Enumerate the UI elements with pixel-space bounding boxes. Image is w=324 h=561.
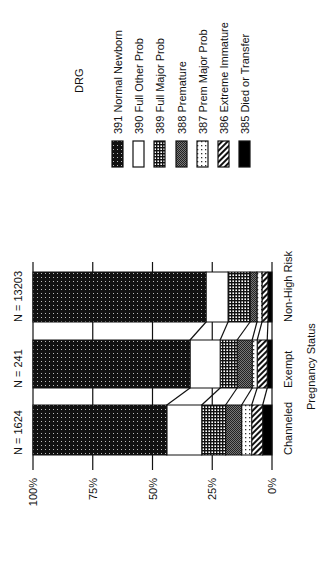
bar-channeled <box>33 405 272 455</box>
bar-segment <box>257 272 262 322</box>
category-label: Non-High Risk <box>282 251 294 322</box>
legend-swatch <box>218 141 229 167</box>
bar-segment <box>33 405 167 455</box>
bar-segment <box>250 272 257 322</box>
bar-segment <box>262 272 268 322</box>
legend-item: 388 Premature <box>176 61 188 167</box>
x-axis-label: Pregnancy Status <box>305 323 317 410</box>
connector-line <box>167 388 190 405</box>
legend-item: 387 Prem Major Prob <box>197 29 209 167</box>
bar-segment <box>220 340 237 388</box>
n-label: N = 13203 <box>12 271 24 322</box>
bar-segment <box>33 272 206 322</box>
connector-line <box>267 322 268 340</box>
connector-line <box>226 388 237 405</box>
stacked-bar-chart: 0%25%50%75%100%N = 1624ChanneledN = 241E… <box>0 0 324 561</box>
connector-line <box>263 388 268 405</box>
connector-line <box>220 322 228 340</box>
bar-segment <box>33 340 190 388</box>
y-tick-label: 75% <box>87 478 99 500</box>
connector-line <box>252 322 257 340</box>
legend-item: 390 Full Other Prob <box>133 38 145 167</box>
bar-segment <box>257 340 267 388</box>
legend-swatch <box>154 141 165 167</box>
bar-exempt <box>33 340 272 388</box>
bar-segment <box>202 405 226 455</box>
y-tick-label: 0% <box>266 478 278 494</box>
category-label: Channeled <box>282 402 294 455</box>
category-label: Exempt <box>282 351 294 388</box>
legend-swatch <box>176 141 187 167</box>
bar-segment <box>242 405 252 455</box>
legend-item: 385 Died or Transfer <box>239 33 251 167</box>
connector-line <box>237 322 250 340</box>
n-label: N = 241 <box>12 349 24 388</box>
y-tick-label: 50% <box>147 478 159 500</box>
legend-label: 387 Prem Major Prob <box>197 29 209 134</box>
legend-label: 385 Died or Transfer <box>239 33 251 134</box>
bar-segment <box>190 340 220 388</box>
legend-label: 390 Full Other Prob <box>133 38 145 134</box>
legend-item: 391 Normal Newborn <box>112 30 124 167</box>
legend-swatch <box>112 141 123 167</box>
legend-swatch <box>239 141 250 167</box>
bar-segment <box>228 272 250 322</box>
y-tick-label: 25% <box>206 478 218 500</box>
bar-non-high-risk <box>33 272 272 322</box>
legend-item: 386 Extreme Immature <box>218 22 230 167</box>
connector-line <box>190 322 206 340</box>
bar-segment <box>267 340 272 388</box>
bar-segment <box>206 272 228 322</box>
bar-segment <box>263 405 272 455</box>
bar-segment <box>237 340 252 388</box>
connector-line <box>242 388 253 405</box>
legend-label: 391 Normal Newborn <box>112 30 124 134</box>
legend-swatch <box>133 141 144 167</box>
connector-line <box>252 388 257 405</box>
bar-segment <box>252 405 263 455</box>
legend-label: 389 Full Major Prob <box>154 38 166 134</box>
bar-segment <box>226 405 242 455</box>
chart-svg: 0%25%50%75%100%N = 1624ChanneledN = 241E… <box>0 0 324 561</box>
legend-title: DRG <box>73 69 85 93</box>
legend-swatch <box>197 141 208 167</box>
bar-segment <box>167 405 202 455</box>
bar-segment <box>268 272 272 322</box>
legend-label: 388 Premature <box>176 61 188 134</box>
connector-line <box>257 322 262 340</box>
y-tick-label: 100% <box>27 478 39 506</box>
legend-label: 386 Extreme Immature <box>218 22 230 134</box>
bar-segment <box>252 340 257 388</box>
n-label: N = 1624 <box>12 410 24 455</box>
legend-item: 389 Full Major Prob <box>154 38 166 167</box>
connector-line <box>202 388 220 405</box>
